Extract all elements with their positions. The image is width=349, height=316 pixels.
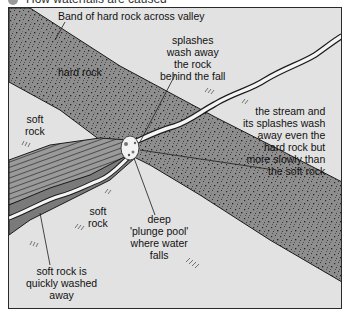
label-soft-rock-upper: softrock (25, 113, 45, 137)
waterfall-splash (121, 136, 139, 160)
label-soft-washed: soft rock isquickly washed away (26, 265, 97, 301)
label-plunge-pool: deep'plunge pool' where waterfalls (130, 213, 188, 261)
label-splashes: splasheswash away the rockbehind the fal… (160, 34, 225, 82)
label-stream-wash: the stream andits splashes wash away eve… (243, 105, 325, 177)
label-soft-rock-lower: softrock (88, 205, 108, 229)
label-hard-rock: hard rock (58, 66, 102, 78)
label-band: Band of hard rock across valley (58, 10, 205, 22)
